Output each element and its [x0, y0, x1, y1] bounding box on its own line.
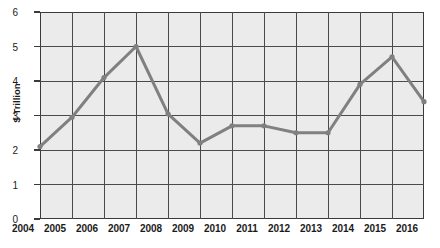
- x-axis-tick-label: 2014: [326, 223, 360, 234]
- x-axis-tick-label: 2006: [70, 223, 104, 234]
- x-axis-tick-label: 2004: [6, 223, 40, 234]
- chart-canvas: [0, 0, 440, 248]
- y-axis-tick-label: 6: [0, 7, 18, 18]
- y-axis-tickmarks: [34, 12, 40, 219]
- y-axis-tick-label: 3: [0, 110, 18, 121]
- x-axis-tick-label: 2007: [102, 223, 136, 234]
- x-axis-tick-label: 2013: [294, 223, 328, 234]
- x-axis-tick-label: 2005: [38, 223, 72, 234]
- y-axis-tick-label: 4: [0, 76, 18, 87]
- x-axis-tick-label: 2009: [166, 223, 200, 234]
- y-axis-tick-label: 2: [0, 145, 18, 156]
- y-axis-tick-label: 5: [0, 41, 18, 52]
- y-axis-tick-label: 1: [0, 179, 18, 190]
- x-axis-tick-label: 2010: [198, 223, 232, 234]
- x-axis-tick-label: 2016: [390, 223, 424, 234]
- x-axis-tick-label: 2012: [262, 223, 296, 234]
- line-chart-figure: $ Trillion 0123456 200420052006200720082…: [0, 0, 440, 248]
- x-axis-tick-label: 2015: [358, 223, 392, 234]
- x-axis-tick-label: 2008: [134, 223, 168, 234]
- x-axis-tick-label: 2011: [230, 223, 264, 234]
